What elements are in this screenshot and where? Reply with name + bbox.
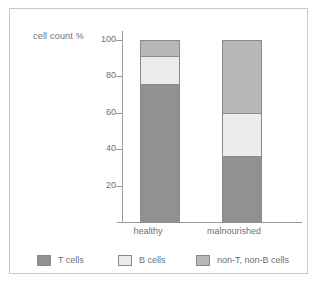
- y-tick-label-wrap: 60: [80, 107, 116, 108]
- y-tick-label: 100: [86, 34, 116, 44]
- bars-container: [122, 40, 302, 222]
- chart-legend: T cellsB cellsnon-T, non-B cells: [10, 245, 309, 275]
- y-axis-title: cell count %: [33, 31, 84, 41]
- bar-segment-b-cells[interactable]: [141, 57, 179, 84]
- legend-swatch-icon: [118, 255, 132, 266]
- bar-healthy[interactable]: [140, 40, 180, 222]
- legend-item[interactable]: non-T, non-B cells: [196, 255, 289, 266]
- legend-swatch-icon: [196, 255, 210, 266]
- plot-area: cell count % 10080604020 healthy malnour…: [10, 9, 309, 275]
- bar-segment-non-t-non-b-cells[interactable]: [141, 41, 179, 57]
- bar-segment-b-cells[interactable]: [223, 114, 261, 158]
- bar-segment-t-cells[interactable]: [223, 157, 261, 223]
- y-tick-label-wrap: 40: [80, 143, 116, 144]
- y-tick-label: 40: [86, 143, 116, 153]
- y-tick-label-wrap: 20: [80, 180, 116, 181]
- bar-segment-non-t-non-b-cells[interactable]: [223, 41, 261, 114]
- y-tick-label: 20: [86, 180, 116, 190]
- y-tick-label-wrap: 100: [80, 34, 116, 35]
- legend-label: T cells: [58, 255, 84, 265]
- legend-item[interactable]: T cells: [37, 255, 84, 266]
- y-tick-label: 80: [86, 70, 116, 80]
- x-axis-label-malnourished: malnourished: [191, 226, 277, 236]
- legend-label: non-T, non-B cells: [217, 255, 289, 265]
- bar-segment-t-cells[interactable]: [141, 85, 179, 223]
- bar-malnourished[interactable]: [222, 40, 262, 222]
- legend-swatch-icon: [37, 255, 51, 266]
- x-axis-label-healthy: healthy: [120, 226, 176, 236]
- legend-item[interactable]: B cells: [118, 255, 166, 266]
- y-tick-label-wrap: 80: [80, 70, 116, 71]
- y-tick-label: 60: [86, 107, 116, 117]
- legend-label: B cells: [139, 255, 166, 265]
- chart-frame: cell count % 10080604020 healthy malnour…: [9, 8, 308, 274]
